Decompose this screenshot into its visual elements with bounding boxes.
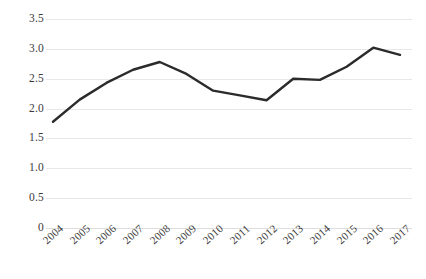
x-axis-labels: 2004200520062007200820092010201120122013…	[0, 0, 426, 279]
x-tick-label: 2013	[281, 223, 305, 246]
line-chart: 00.51.01.52.02.53.03.5 20042005200620072…	[0, 0, 426, 279]
x-tick-label: 2015	[335, 223, 359, 246]
x-tick-label: 2004	[41, 223, 65, 246]
x-tick-label: 2017	[388, 223, 412, 246]
x-tick-label: 2005	[68, 223, 92, 246]
x-tick-label: 2014	[308, 223, 332, 246]
x-tick-label: 2010	[201, 223, 225, 246]
x-tick-label: 2016	[361, 223, 385, 246]
x-tick-label: 2012	[255, 223, 279, 246]
x-tick-label: 2009	[174, 223, 198, 246]
x-tick-label: 2011	[228, 223, 252, 246]
x-tick-label: 2008	[148, 223, 172, 246]
x-tick-label: 2007	[121, 223, 145, 246]
x-tick-label: 2006	[94, 223, 118, 246]
